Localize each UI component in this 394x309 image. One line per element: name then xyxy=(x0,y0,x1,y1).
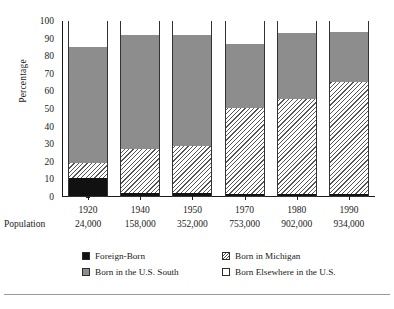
legend-label: Born Elsewhere in the U.S. xyxy=(235,267,336,277)
bar-segment-1970-south[interactable] xyxy=(226,44,264,108)
legend-item-born-in-michigan[interactable]: Born in Michigan xyxy=(222,249,300,263)
bar-segment-1970-michigan[interactable] xyxy=(226,108,264,194)
bar-segment-1990-south[interactable] xyxy=(330,32,368,81)
legend-item-born-elsewhere-in-the-u-s[interactable]: Born Elsewhere in the U.S. xyxy=(222,265,336,279)
legend-label: Born in Michigan xyxy=(235,251,300,261)
x-axis-year-1920: 1920 xyxy=(62,203,114,217)
chart-legend: Foreign-BornBorn in MichiganBorn in the … xyxy=(0,249,394,283)
bar-segment-1970-elsewhere[interactable] xyxy=(226,20,264,44)
x-tick-mark-1980 xyxy=(297,196,298,200)
y-tick-label-0: 0 xyxy=(49,191,54,203)
bar-1940[interactable] xyxy=(120,21,160,197)
bar-segment-1920-elsewhere[interactable] xyxy=(69,20,107,47)
bar-segment-1940-elsewhere[interactable] xyxy=(121,20,159,35)
population-value-1980: 902,000 xyxy=(271,217,323,231)
y-tick-label-20: 20 xyxy=(45,156,55,168)
y-tick-label-10: 10 xyxy=(45,173,55,185)
population-value-1940: 158,000 xyxy=(114,217,166,231)
legend-swatch-icon xyxy=(82,268,90,276)
population-value-1950: 352,000 xyxy=(166,217,218,231)
population-value-1920: 24,000 xyxy=(62,217,114,231)
bar-segment-1980-elsewhere[interactable] xyxy=(278,20,316,33)
legend-label: Foreign-Born xyxy=(95,251,145,261)
y-tick-label-70: 70 xyxy=(45,68,55,80)
legend-item-born-in-the-u-s-south[interactable]: Born in the U.S. South xyxy=(82,265,179,279)
x-axis-year-row: 192019401950197019801990 xyxy=(0,203,394,217)
x-axis-year-1980: 1980 xyxy=(271,203,323,217)
legend-swatch-icon xyxy=(222,268,230,276)
x-tick-mark-1990 xyxy=(349,196,350,200)
bar-segment-1950-michigan[interactable] xyxy=(173,146,211,194)
x-axis-year-1970: 1970 xyxy=(219,203,271,217)
bar-segment-1990-elsewhere[interactable] xyxy=(330,20,368,32)
y-tick-label-60: 60 xyxy=(45,85,55,97)
y-tick-label-80: 80 xyxy=(45,50,55,62)
population-row: Population 24,000158,000352,000753,00090… xyxy=(0,217,394,231)
y-tick-label-90: 90 xyxy=(45,33,55,45)
population-row-header: Population xyxy=(4,217,62,231)
population-value-1990: 934,000 xyxy=(323,217,375,231)
bar-1970[interactable] xyxy=(225,21,265,197)
bar-1950[interactable] xyxy=(172,21,212,197)
y-tick-label-30: 30 xyxy=(45,138,55,150)
x-axis-table: 192019401950197019801990 Population 24,0… xyxy=(0,203,394,231)
bar-segment-1940-michigan[interactable] xyxy=(121,149,159,193)
bar-segment-1920-south[interactable] xyxy=(69,47,107,162)
x-tick-mark-1920 xyxy=(88,196,89,200)
bar-segment-1920-foreign[interactable] xyxy=(69,178,107,196)
bar-1980[interactable] xyxy=(277,21,317,197)
x-tick-mark-1970 xyxy=(245,196,246,200)
x-axis-year-1990: 1990 xyxy=(323,203,375,217)
legend-swatch-icon xyxy=(222,252,230,260)
legend-swatch-icon xyxy=(82,252,90,260)
x-axis-year-1940: 1940 xyxy=(114,203,166,217)
legend-label: Born in the U.S. South xyxy=(95,267,179,277)
legend-item-foreign-born[interactable]: Foreign-Born xyxy=(82,249,145,263)
y-axis-tick-labels: 0102030405060708090100 xyxy=(26,14,54,204)
footer-divider xyxy=(4,294,390,295)
bar-1920[interactable] xyxy=(68,21,108,197)
x-axis-year-1950: 1950 xyxy=(166,203,218,217)
bar-segment-1950-south[interactable] xyxy=(173,35,211,146)
bar-segment-1950-elsewhere[interactable] xyxy=(173,20,211,35)
y-tick-label-50: 50 xyxy=(45,103,55,115)
y-tick-label-40: 40 xyxy=(45,121,55,133)
plot-area: Percentage 0102030405060708090100 xyxy=(0,0,394,205)
y-tick-label-100: 100 xyxy=(40,15,54,27)
bar-group xyxy=(62,21,375,197)
bar-segment-1920-michigan[interactable] xyxy=(69,163,107,179)
population-value-1970: 753,000 xyxy=(219,217,271,231)
x-tick-mark-1950 xyxy=(192,196,193,200)
bar-1990[interactable] xyxy=(329,21,369,197)
bar-segment-1940-south[interactable] xyxy=(121,35,159,149)
figure-container: Percentage 0102030405060708090100 192019… xyxy=(0,0,394,309)
bar-segment-1980-michigan[interactable] xyxy=(278,99,316,194)
bar-segment-1980-south[interactable] xyxy=(278,33,316,99)
x-tick-mark-1940 xyxy=(140,196,141,200)
bar-segment-1990-michigan[interactable] xyxy=(330,82,368,195)
